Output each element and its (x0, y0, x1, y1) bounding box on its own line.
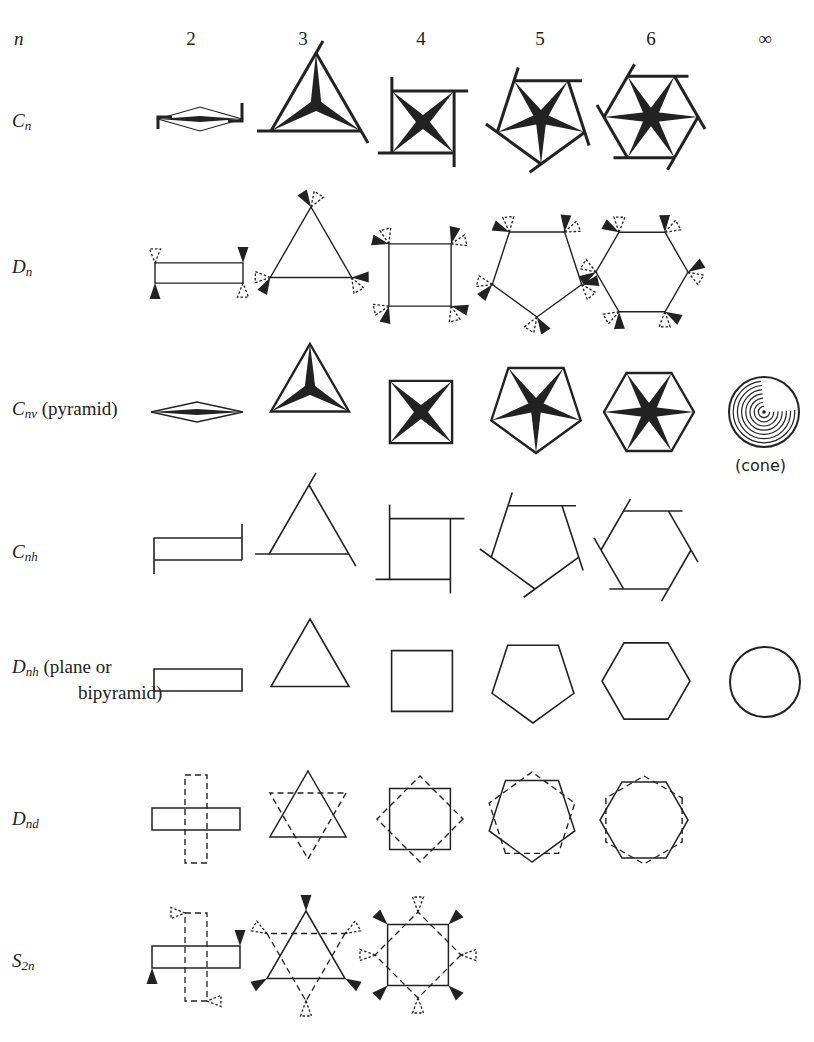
shape-S2n-2 (147, 908, 246, 1007)
shape-Dnh-4 (392, 651, 453, 712)
shape-Cn-5 (486, 67, 589, 172)
cone-label: (cone) (735, 456, 786, 475)
shape-Cnv-3 (271, 344, 349, 412)
shape-Dnd-5 (489, 772, 575, 862)
shape-Cn-3 (257, 41, 368, 143)
shape-Dn-5 (476, 215, 599, 335)
shape-Cnv-4 (390, 381, 452, 443)
shape-Dnd-2 (152, 775, 240, 863)
shape-Dnd-6 (600, 776, 688, 864)
shape-Dn-4 (371, 226, 469, 324)
shape-Cnv-5 (491, 368, 580, 453)
shape-Dn-6 (579, 215, 706, 329)
shape-Dn-2 (150, 247, 249, 299)
shape-S2n-4 (360, 897, 476, 1013)
point-group-figure (0, 0, 814, 1042)
shape-Dnh-6 (602, 643, 690, 719)
shape-Cn-4 (378, 77, 468, 167)
shape-Cnh-6 (594, 499, 698, 601)
shape-Cnh-4 (376, 505, 465, 594)
shape-Cnv-6 (604, 373, 694, 451)
shape-Dnh-inf (730, 647, 800, 717)
shape-Cnv-2 (151, 402, 243, 422)
shape-Cnh-3 (255, 473, 356, 566)
shape-Cnh-5 (480, 492, 583, 597)
shape-Dn-3 (255, 190, 369, 296)
shape-Cnv-inf (729, 377, 799, 447)
shape-Dnd-4 (377, 776, 463, 862)
shape-Cn-2 (158, 103, 242, 131)
shape-Cnh-2 (154, 524, 242, 574)
shape-Dnh-3 (271, 619, 349, 687)
shape-Cn-6 (597, 64, 705, 170)
shape-Dnd-3 (270, 771, 346, 859)
shape-Dnh-2 (154, 669, 242, 691)
shape-S2n-3 (250, 895, 361, 1016)
shape-Dnh-5 (492, 645, 574, 723)
